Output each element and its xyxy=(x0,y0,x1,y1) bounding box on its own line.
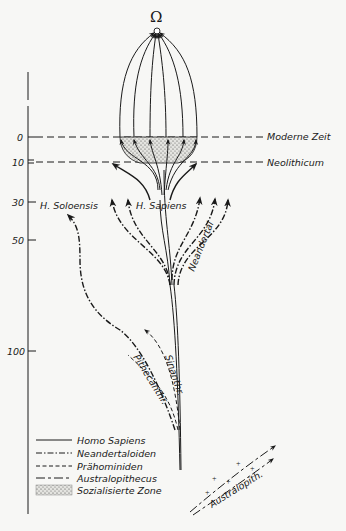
legend-sozialisierte-zone: Sozialisierte Zone xyxy=(77,485,162,496)
svg-text:+: + xyxy=(212,474,217,483)
svg-text:+: + xyxy=(205,488,210,497)
australopith-branches: + + + + + xyxy=(190,446,275,515)
legend-homo-sapiens: Homo Sapiens xyxy=(77,435,145,446)
legend-praehominiden: Prähominiden xyxy=(77,461,143,472)
legend: Homo Sapiens Neandertaloiden Prähominide… xyxy=(36,435,162,496)
tick-100: 100 xyxy=(7,346,25,357)
svg-text:+: + xyxy=(226,477,231,486)
legend-neandertaloiden: Neandertaloiden xyxy=(77,448,156,459)
time-axis: 0 10 30 50 100 xyxy=(7,72,36,514)
tick-30: 30 xyxy=(12,197,24,208)
label-neolithicum: Neolithicum xyxy=(267,157,324,168)
label-sinanthr: Sinanthr. xyxy=(163,353,187,397)
evolution-diagram: 0 10 30 50 100 Moderne Zeit Neolithicum … xyxy=(0,0,346,531)
omega-symbol: Ω xyxy=(150,8,162,26)
sapiens-neandertal-fan xyxy=(112,170,228,470)
label-h-sapiens: H. Sapiens xyxy=(136,200,187,211)
svg-text:+: + xyxy=(236,459,241,468)
legend-australopithecus: Australopithecus xyxy=(76,473,157,484)
tick-10: 10 xyxy=(12,157,24,168)
label-h-soloensis: H. Soloensis xyxy=(40,200,98,211)
omega-point xyxy=(154,28,160,34)
convergence-arcs xyxy=(120,33,197,137)
tick-50: 50 xyxy=(12,235,24,246)
label-moderne-zeit: Moderne Zeit xyxy=(267,131,332,142)
tick-0: 0 xyxy=(17,132,23,143)
